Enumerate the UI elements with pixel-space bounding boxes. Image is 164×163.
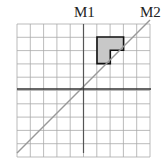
grid-diagram — [0, 0, 164, 163]
